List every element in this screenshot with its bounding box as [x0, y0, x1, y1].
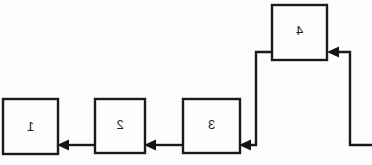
edge-in-to-4: [327, 47, 372, 146]
diagram-canvas: 1 2 3 4: [0, 0, 372, 165]
node-2[interactable]: 2: [95, 99, 145, 153]
flowchart-svg: 1 2 3 4: [0, 0, 372, 165]
edge-2-to-1: [57, 140, 95, 151]
edge-3-to-2: [144, 140, 183, 151]
node-3[interactable]: 3: [183, 99, 240, 153]
node-1[interactable]: 1: [3, 99, 58, 154]
node-3-label: 3: [208, 117, 215, 132]
node-4-label: 4: [296, 23, 303, 38]
edge-in-to-4-arrowhead: [327, 47, 339, 58]
edge-in-to-4-line: [336, 52, 372, 145]
node-4[interactable]: 4: [272, 5, 327, 60]
edge-4-to-3: [239, 52, 280, 151]
node-2-label: 2: [116, 117, 123, 132]
edge-4-to-3-line: [249, 52, 280, 145]
node-1-label: 1: [27, 119, 34, 134]
